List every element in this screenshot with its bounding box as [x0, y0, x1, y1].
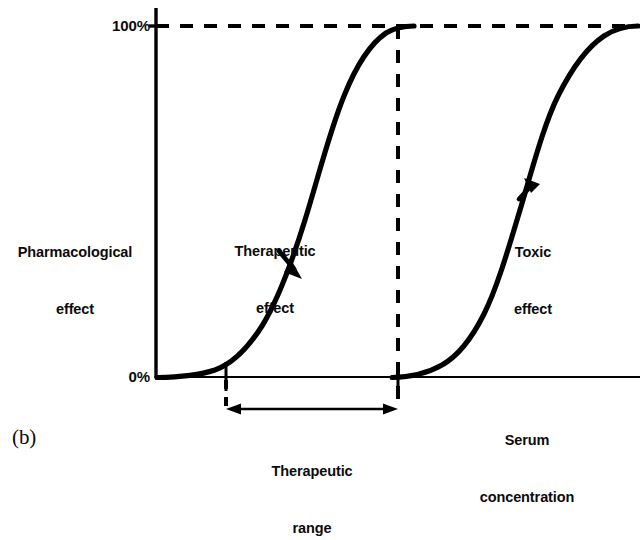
- panel-identifier: (b): [12, 428, 72, 447]
- toxic-effect-label-line2: effect: [494, 300, 572, 319]
- toxic-effect-pointer-arrow: [519, 178, 540, 199]
- y-axis-title: Pharmacological effect: [4, 205, 146, 357]
- therapeutic-range-arrow: [226, 404, 398, 415]
- y-axis-tick-label-100: 100%: [92, 16, 150, 35]
- x-axis-title-line1: Serum: [452, 431, 602, 450]
- x-axis-title-line2: concentration: [452, 488, 602, 507]
- therapeutic-effect-label-line2: effect: [222, 299, 328, 318]
- therapeutic-effect-label: Therapeutic effect: [222, 204, 328, 356]
- therapeutic-range-label-line2: range: [238, 519, 386, 538]
- toxic-effect-label-line1: Toxic: [494, 243, 572, 262]
- therapeutic-effect-label-line1: Therapeutic: [222, 242, 328, 261]
- y-axis-tick-label-0: 0%: [92, 367, 150, 386]
- y-axis-title-line1: Pharmacological: [4, 243, 146, 262]
- therapeutic-range-label: Therapeutic range: [238, 424, 386, 540]
- x-axis-title: Serum concentration: [452, 393, 602, 540]
- toxic-effect-label: Toxic effect: [494, 205, 572, 357]
- y-axis-title-line2: effect: [4, 300, 146, 319]
- therapeutic-range-label-line1: Therapeutic: [238, 462, 386, 481]
